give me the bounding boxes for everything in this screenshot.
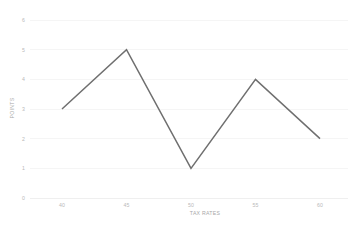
chart-canvas: 0123456 4045505560 TAX RATES POINTS	[0, 0, 361, 228]
y-axis-tick-label: 6	[22, 17, 25, 23]
x-axis-tick-label: 50	[188, 202, 194, 208]
x-axis-tick-label: 55	[253, 202, 259, 208]
chart-background	[0, 0, 361, 228]
y-axis-tick-label: 0	[22, 195, 25, 201]
x-axis-tick-label: 60	[317, 202, 323, 208]
y-axis-tick-label: 3	[22, 106, 25, 112]
y-axis-title: POINTS	[9, 97, 15, 118]
line-chart: 0123456 4045505560 TAX RATES POINTS	[0, 0, 361, 228]
y-axis-tick-label: 4	[22, 76, 25, 82]
x-axis-title: TAX RATES	[190, 210, 221, 216]
y-axis-tick-label: 5	[22, 47, 25, 53]
y-axis-tick-label: 2	[22, 136, 25, 142]
x-axis-tick-label: 40	[59, 202, 65, 208]
x-axis-tick-label: 45	[124, 202, 130, 208]
y-axis-tick-label: 1	[22, 165, 25, 171]
